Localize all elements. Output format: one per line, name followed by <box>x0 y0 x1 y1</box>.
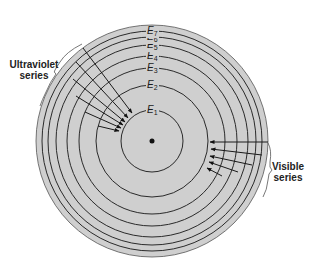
level-label-e4: E4 <box>146 51 159 63</box>
ultraviolet-series-label: Ultraviolet series <box>8 59 60 81</box>
level-label-e3: E3 <box>146 63 159 75</box>
visible-label-line1: Visible <box>272 161 304 172</box>
level-label-e2: E2 <box>146 80 159 92</box>
visible-series-label: Visible series <box>272 161 304 183</box>
level-label-e7: E7 <box>146 26 159 38</box>
ultraviolet-label-line2: series <box>8 70 60 81</box>
nucleus-dot <box>150 139 155 144</box>
visible-label-line2: series <box>272 172 304 183</box>
ultraviolet-label-line1: Ultraviolet <box>8 59 60 70</box>
level-label-e1: E1 <box>146 105 159 117</box>
